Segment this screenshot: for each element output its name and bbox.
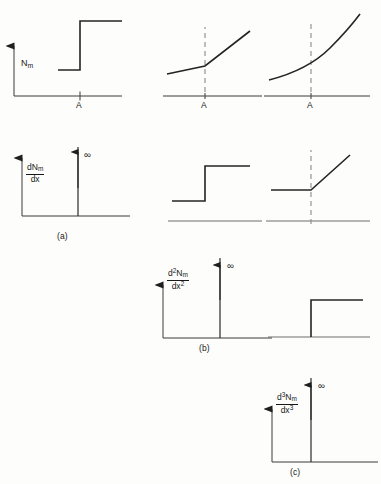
panel-b3 [266,150,370,224]
panel-a1-tick-label-a: A [76,101,82,110]
panel-b1-label-numerator: dNm [26,163,44,175]
panel-a2-tick-label-a: A [201,101,207,110]
caption-c: (c) [290,468,300,477]
caption-b: (b) [199,344,210,353]
panel-a3-smooth-curve [269,14,360,80]
panel-d1-y-axis-label: d3Nm dx3 [276,392,298,415]
panel-d1-label-numerator: d3Nm [276,392,298,405]
panel-a3-tick-label-a: A [307,101,313,110]
panel-b2-step-curve [172,166,250,201]
panel-d1-infinity-label: ∞ [318,381,325,391]
panel-c1-label-numerator: d2Nm [167,268,189,281]
figure-root: Nm A A A dNm dx ∞ (a) d2Nm dx2 ∞ (b) d3N… [0,0,381,484]
panel-b1-y-axis-label: dNm dx [26,163,44,185]
panel-c1-infinity-label: ∞ [227,261,234,271]
panel-a2-kink-curve [167,31,250,74]
panel-a1-step-curve [58,21,122,70]
panel-a1-y-axis-label: Nm [21,59,33,69]
panel-b1-infinity-label: ∞ [84,150,91,160]
panel-a3 [264,14,370,99]
figure-canvas [0,0,381,484]
panel-c1-y-axis-label: d2Nm dx2 [167,268,189,291]
panel-b1-label-denominator: dx [26,175,44,185]
panel-b2 [168,166,262,221]
panel-c1-label-denominator: dx2 [167,281,189,291]
panel-c2-step-curve [311,300,363,337]
panel-d1 [272,378,378,462]
caption-a: (a) [57,232,68,241]
panel-c2 [268,300,370,337]
panel-a2 [163,27,262,99]
panel-d1-label-denominator: dx3 [276,405,298,415]
